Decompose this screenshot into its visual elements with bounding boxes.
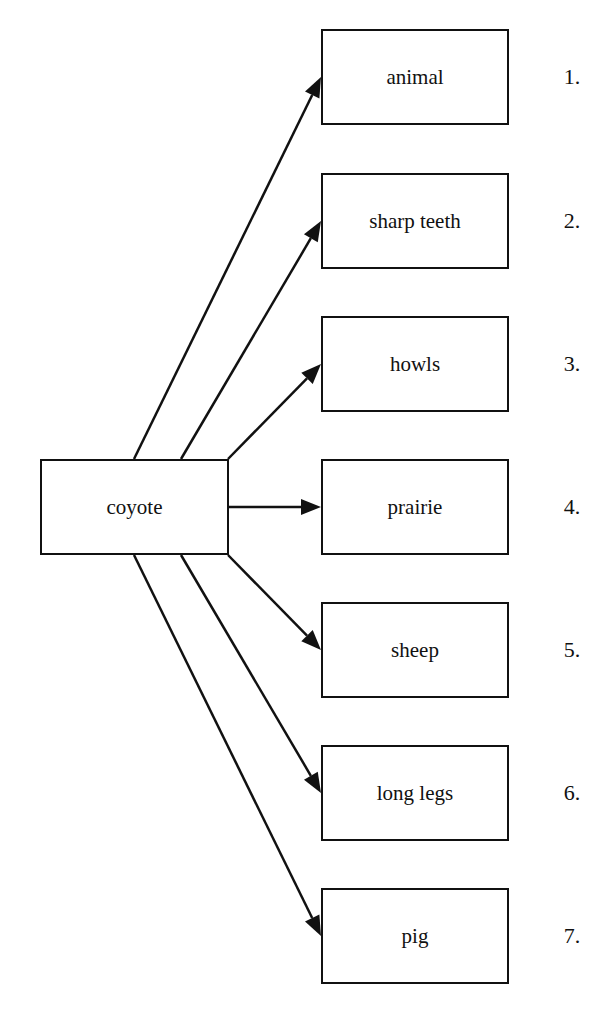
concept-diagram: coyote animal sharp teeth howls prairie … [0, 0, 593, 1014]
source-node-label: coyote [107, 495, 163, 520]
target-node-sheep: sheep [321, 602, 509, 698]
arrowhead-icon [305, 915, 321, 936]
edge-line [228, 378, 307, 459]
target-node-label: animal [386, 65, 443, 90]
arrowhead-icon [304, 221, 321, 242]
arrowhead-icon [304, 772, 321, 793]
target-node-label: sharp teeth [369, 209, 461, 234]
target-node-label: long legs [377, 781, 453, 806]
target-node-label: pig [402, 924, 429, 949]
target-node-long-legs: long legs [321, 745, 509, 841]
item-number-4: 4. [552, 494, 592, 520]
item-number-7: 7. [552, 923, 592, 949]
target-node-label: sheep [391, 638, 439, 663]
target-node-pig: pig [321, 888, 509, 984]
target-node-label: howls [390, 352, 440, 377]
item-number-2: 2. [552, 208, 592, 234]
arrowhead-icon [301, 499, 321, 515]
edge-line [134, 555, 312, 918]
item-number-3: 3. [552, 351, 592, 377]
target-node-label: prairie [388, 495, 443, 520]
edge-line [228, 555, 307, 636]
arrowhead-icon [305, 77, 321, 98]
edge-line [181, 238, 311, 459]
edge-line [134, 95, 312, 459]
item-number-5: 5. [552, 637, 592, 663]
source-node-coyote: coyote [40, 459, 229, 555]
target-node-sharp-teeth: sharp teeth [321, 173, 509, 269]
item-number-1: 1. [552, 64, 592, 90]
target-node-animal: animal [321, 29, 509, 125]
item-number-6: 6. [552, 780, 592, 806]
target-node-prairie: prairie [321, 459, 509, 555]
edge-line [181, 555, 311, 776]
target-node-howls: howls [321, 316, 509, 412]
